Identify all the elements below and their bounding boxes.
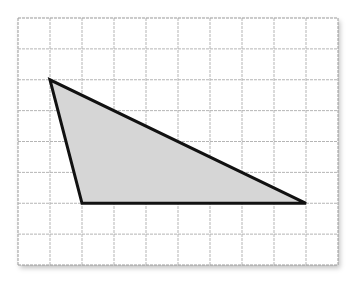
grid-diagram [0,0,353,289]
